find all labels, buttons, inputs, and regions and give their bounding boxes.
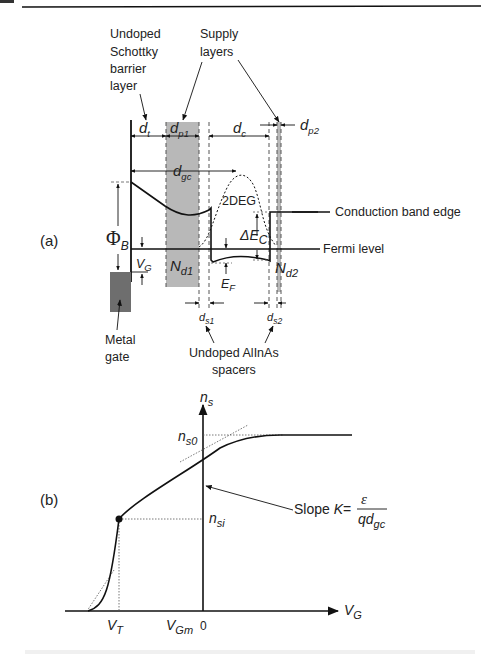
vg-label: VG [136,257,152,273]
operating-point [116,516,123,523]
corner-mark [0,0,14,3]
supply-annotation: Supply layers [183,27,279,122]
ds1-label: ds1 [199,311,214,326]
ns-axis-label: ns [200,389,214,408]
slope-pointer [206,486,293,510]
spacer-pointer-2 [265,326,273,343]
vgm-label: VGm [166,617,193,636]
zero-label: 0 [200,619,207,633]
top-rule [22,6,481,7]
metal-gate-line-2: gate [105,350,129,364]
supply-pointer-2 [238,60,279,122]
slope-denominator: qdgc [358,511,386,530]
ef-label: EF [221,277,236,293]
schottky-line-4: layer [110,79,137,93]
ds2-label: ds2 [267,311,282,326]
2deg-label: 2DEG [222,194,256,208]
fermi-level-label: Fermi level [323,242,384,256]
panel-a-label: (a) [40,232,58,249]
panel-b-label: (b) [40,491,58,508]
supply-line-1: Supply [200,27,239,41]
spacer-pointer-1 [206,326,214,343]
schottky-line-3: barrier [110,62,146,76]
dec-label: ΔEC [239,227,268,247]
supply-line-2: layers [200,45,233,59]
metal-gate-block [110,272,131,312]
spacers-line-2: spacers [212,363,256,377]
schottky-line-1: Undoped [110,27,161,41]
schottky-pointer [140,94,146,120]
vg-axis-label: VG [344,602,362,621]
metal-gate-line-1: Metal [105,333,136,347]
vt-label: VT [107,617,124,636]
ns0-label: ns0 [178,428,198,447]
conduction-band-label: Conduction band edge [335,205,461,219]
dp2-label: dp2 [300,116,320,136]
schottky-line-2: Schottky [110,45,159,59]
phiB-label: ΦB [106,227,129,253]
schottky-annotation: Undoped Schottky barrier layer [110,27,161,120]
caption-cutoff [25,650,475,654]
slope-label: Slope K= [294,501,351,517]
slope-numerator: ε [361,491,367,507]
nsi-label: nsi [209,510,225,529]
figure-canvas: (a) Undoped Schottky barrier layer Suppl… [0,0,481,654]
spacers-line-1: Undoped AlInAs [189,346,279,360]
supply-pointer-1 [183,62,202,120]
